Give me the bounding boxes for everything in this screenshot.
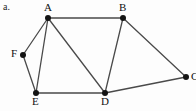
edge-layer: [23, 18, 186, 93]
graph-diagram: [0, 0, 196, 111]
vertex-label-b: B: [119, 2, 126, 13]
graph-edge-a-f: [23, 18, 48, 55]
vertex-label-c: C: [191, 71, 196, 82]
graph-vertex-a: [45, 15, 51, 21]
graph-edge-a-e: [36, 18, 48, 93]
graph-edge-b-d: [105, 18, 123, 93]
vertex-label-e: E: [32, 96, 39, 107]
graph-vertex-b: [120, 15, 126, 21]
graph-edge-c-d: [105, 77, 186, 93]
graph-edge-b-c: [123, 18, 186, 77]
vertex-label-d: D: [101, 96, 109, 107]
graph-edge-a-d: [48, 18, 105, 93]
figure-panel: a. ABCDEF: [0, 0, 196, 111]
graph-edge-f-e: [23, 55, 36, 93]
vertex-label-f: F: [11, 48, 17, 59]
vertex-label-a: A: [44, 2, 52, 13]
graph-vertex-f: [20, 52, 26, 58]
graph-vertex-c: [183, 74, 189, 80]
